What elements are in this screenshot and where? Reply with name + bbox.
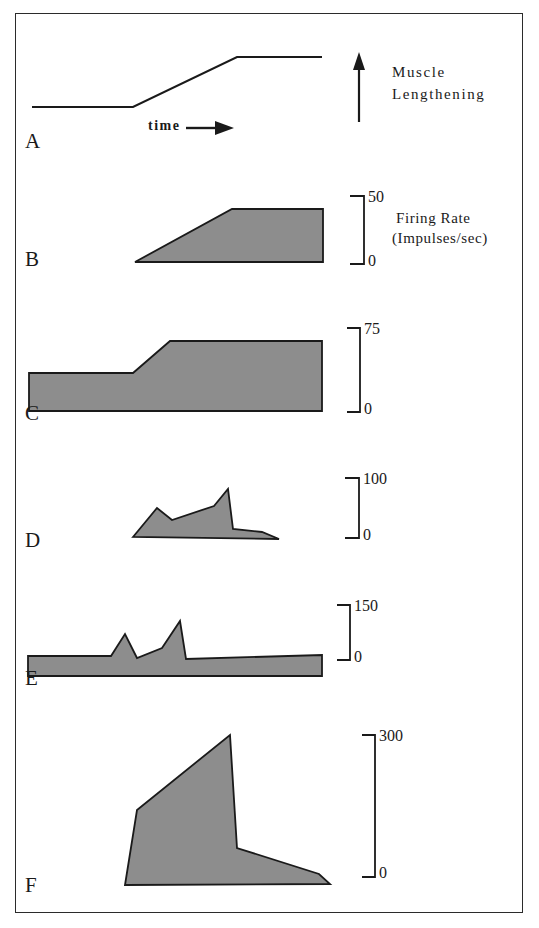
panel-d-scale-bottom: 0 [363, 526, 371, 544]
time-axis-label: time [148, 118, 180, 134]
panel-d-scale-bracket [345, 478, 359, 538]
muscle-lengthening-label-line1: Muscle [392, 61, 446, 83]
panel-letter-c: C [25, 401, 40, 426]
panel-b-scale-bracket [350, 196, 364, 264]
panel-b-scale-top: 50 [368, 188, 384, 206]
panel-f-scale-bottom: 0 [379, 864, 387, 882]
panel-c-scale-bottom: 0 [364, 400, 372, 418]
panel-letter-b: B [25, 247, 40, 272]
panel-b-scale-bottom: 0 [368, 252, 376, 270]
panel-c-trace [29, 341, 322, 411]
panel-d-trace [133, 489, 279, 539]
panel-f-trace [125, 735, 330, 885]
muscle-lengthening-label-line2: Lengthening [392, 83, 485, 105]
panel-f-scale-top: 300 [379, 727, 403, 745]
firing-rate-label-line2: (Impulses/sec) [392, 228, 488, 248]
time-arrow-icon [186, 121, 234, 135]
panel-e-scale-bracket [337, 605, 350, 660]
panel-b-trace [135, 209, 323, 262]
panel-d-scale-top: 100 [363, 470, 387, 488]
panel-letter-f: F [25, 873, 37, 898]
panel-letter-a: A [25, 129, 41, 154]
panel-c-scale-top: 75 [364, 320, 380, 338]
panel-letter-e: E [25, 666, 38, 691]
figure-root: A B C D E F 50 0 75 0 100 0 150 0 300 0 … [0, 0, 539, 928]
panel-letter-d: D [25, 528, 41, 553]
panel-f-scale-bracket [362, 735, 375, 877]
panel-e-scale-bottom: 0 [354, 648, 362, 666]
panel-c-scale-bracket [347, 328, 360, 412]
panel-e-scale-top: 150 [354, 597, 378, 615]
firing-rate-label-line1: Firing Rate [396, 208, 471, 228]
muscle-lengthening-arrow-icon [353, 52, 365, 122]
figure-traces [0, 0, 539, 928]
panel-a-trace [32, 57, 322, 107]
panel-e-trace [28, 621, 322, 676]
